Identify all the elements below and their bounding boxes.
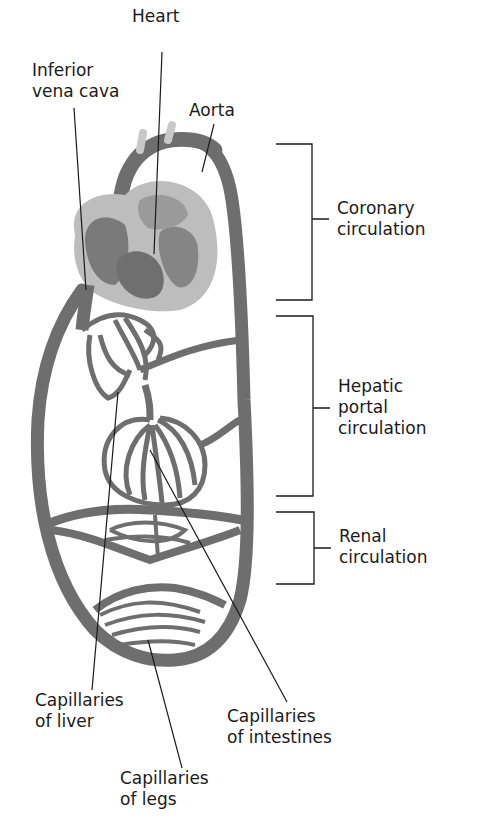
label-inferior-vena-cava: Inferior vena cava <box>32 60 119 102</box>
intestine-capillaries <box>104 385 240 505</box>
label-hepatic-portal-circulation: Hepatic portal circulation <box>338 376 427 439</box>
label-capillaries-liver: Capillaries of liver <box>35 690 124 732</box>
label-aorta: Aorta <box>189 100 235 121</box>
bracket-hepatic-portal <box>276 316 330 496</box>
renal-capillaries <box>45 509 242 560</box>
brackets <box>276 144 331 584</box>
label-coronary-circulation: Coronary circulation <box>337 198 426 240</box>
leg-capillaries <box>95 587 225 645</box>
liver-capillaries <box>82 315 240 398</box>
label-heart: Heart <box>132 6 179 27</box>
bracket-coronary <box>276 144 329 300</box>
label-capillaries-intestines: Capillaries of intestines <box>227 706 332 748</box>
label-capillaries-legs: Capillaries of legs <box>120 768 209 810</box>
bracket-renal <box>276 512 331 584</box>
label-renal-circulation: Renal circulation <box>339 526 428 568</box>
